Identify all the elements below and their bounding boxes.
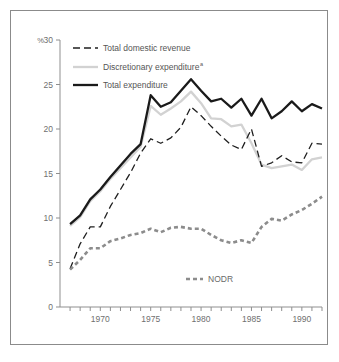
- y-tick-label: 30: [44, 35, 54, 45]
- chart-legend: Total domestic revenue Discretionary exp…: [73, 43, 204, 90]
- y-tick-label: 25: [44, 80, 54, 90]
- y-axis-ticks: 051015202530: [44, 35, 60, 312]
- series-line-nodr: [70, 197, 322, 270]
- x-tick-label: 1985: [242, 314, 261, 324]
- x-tick-label: 1975: [141, 314, 160, 324]
- y-tick-label: 0: [48, 302, 53, 312]
- y-axis-unit-label: %: [37, 36, 44, 45]
- legend-superscript-discretionary-expenditure: a: [200, 61, 204, 67]
- chart-plot-area: 051015202530 19701975198019851990 % Tota…: [0, 0, 339, 362]
- legend-label-total-domestic-revenue: Total domestic revenue: [103, 43, 191, 53]
- chart-figure: 051015202530 19701975198019851990 % Tota…: [0, 0, 339, 362]
- y-tick-label: 15: [44, 169, 54, 179]
- series-line-total-expenditure: [70, 79, 322, 224]
- data-series-group: [70, 79, 322, 269]
- series-line-total-domestic-revenue: [70, 107, 322, 269]
- x-tick-label: 1990: [292, 314, 311, 324]
- legend-label-total-expenditure: Total expenditure: [103, 80, 168, 90]
- x-axis-ticks: 19701975198019851990: [70, 307, 322, 324]
- legend-label-discretionary-expenditure: Discretionary expenditure: [103, 62, 200, 72]
- y-tick-label: 10: [44, 213, 54, 223]
- x-tick-label: 1980: [192, 314, 211, 324]
- x-tick-label: 1970: [91, 314, 110, 324]
- nodr-inline-label: NODR: [186, 274, 233, 284]
- y-tick-label: 5: [48, 258, 53, 268]
- y-tick-label: 20: [44, 124, 54, 134]
- nodr-label-text: NODR: [208, 274, 233, 284]
